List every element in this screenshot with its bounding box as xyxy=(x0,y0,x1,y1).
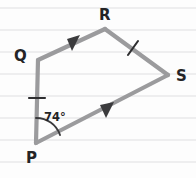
vertex-label-r: R xyxy=(99,6,111,24)
vertex-label-p: P xyxy=(26,149,37,167)
arrow-heads-group xyxy=(67,35,114,118)
vertex-label-q: Q xyxy=(14,47,27,65)
vertex-label-s: S xyxy=(176,67,187,85)
geometry-canvas: P Q R S 74° xyxy=(0,0,196,178)
geometry-figure: P Q R S 74° xyxy=(0,0,196,178)
angle-labels-group: 74° xyxy=(44,110,66,124)
angle-label-p: 74° xyxy=(44,110,66,124)
tick-marks-group xyxy=(29,41,138,98)
edge-pq xyxy=(36,60,38,143)
